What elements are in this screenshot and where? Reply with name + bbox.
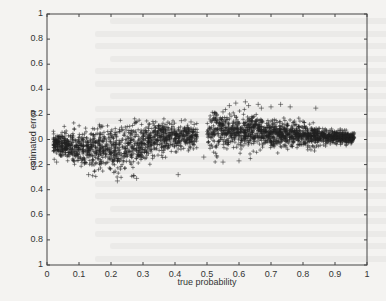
- y-axis-label: estimated error: [28, 110, 38, 171]
- y-tick-label: 0.6: [30, 209, 43, 219]
- scatter-points: [51, 99, 356, 183]
- x-tick-label: 0.3: [137, 269, 150, 279]
- x-axis-label: true probability: [177, 277, 236, 287]
- y-tick-label: 1: [38, 259, 43, 269]
- y-tick-label: 0.8: [30, 234, 43, 244]
- x-tick-label: 0.2: [105, 269, 118, 279]
- x-tick-label: 0.8: [297, 269, 310, 279]
- x-tick-label: 0.7: [265, 269, 278, 279]
- y-tick-label: 0.4: [30, 83, 43, 93]
- y-tick-label: 0.6: [30, 58, 43, 68]
- y-tick-label: 1: [38, 8, 43, 18]
- y-tick-label: 0.8: [30, 33, 43, 43]
- x-tick-label: 0.9: [329, 269, 342, 279]
- x-tick-label: 0: [44, 269, 49, 279]
- x-tick-label: 0.1: [73, 269, 86, 279]
- y-tick-label: 0.4: [30, 184, 43, 194]
- scatter-plot: [0, 0, 386, 301]
- y-tick-label: 0: [38, 134, 43, 144]
- x-tick-label: 1: [364, 269, 369, 279]
